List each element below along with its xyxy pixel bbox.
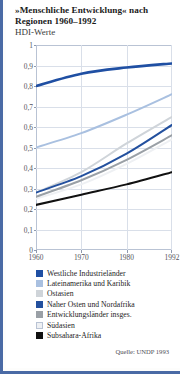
source-note: Quelle: UNDP 1993 (115, 348, 169, 355)
figure-subtitle: HDI-Werte (15, 27, 175, 38)
legend-item: Westliche Industrieländer (36, 268, 178, 278)
y-axis-tick-label: 0,1 (24, 225, 33, 234)
y-axis-tick-label: 0,6 (24, 123, 33, 132)
legend-label: Naher Osten und Nordafrika (47, 300, 135, 309)
legend-item: Naher Osten und Nordafrika (36, 299, 178, 309)
series-lines (36, 45, 172, 250)
x-axis-tick-label: 1992 (165, 253, 180, 262)
y-axis-tick-label: 0,9 (24, 61, 33, 70)
legend-label: Subsahara-Afrika (47, 331, 101, 340)
chart-legend: Westliche IndustrieländerLateinamerika u… (36, 268, 178, 341)
figure-heading: »Menschliche Entwicklung« nach Regionen … (15, 5, 175, 38)
legend-label: Westliche Industrieländer (47, 269, 126, 278)
legend-label: Südasien (47, 321, 75, 330)
figure-frame: »Menschliche Entwicklung« nach Regionen … (0, 0, 180, 374)
legend-swatch (36, 270, 43, 277)
page-title: »Menschliche Entwicklung« nach Regionen … (15, 5, 175, 26)
x-axis-tick-label: 1970 (74, 253, 89, 262)
series-line (36, 63, 172, 86)
y-axis-tick-label: 0,7 (24, 102, 33, 111)
legend-item: Ostasien (36, 289, 178, 299)
legend-swatch (36, 290, 43, 297)
legend-label: Lateinamerika und Karibik (47, 279, 130, 288)
y-axis-tick-label: 1 (29, 41, 33, 50)
y-axis-tick-label: 0,5 (24, 143, 33, 152)
legend-item: Lateinamerika und Karibik (36, 278, 178, 288)
x-axis-tick-label: 1980 (119, 253, 134, 262)
y-axis-tick-label: 0,4 (24, 164, 33, 173)
series-line (36, 94, 172, 147)
legend-item: Südasien (36, 320, 178, 330)
legend-item: Subsahara-Afrika (36, 330, 178, 340)
figure-inner: »Menschliche Entwicklung« nach Regionen … (6, 0, 180, 368)
legend-swatch (36, 301, 43, 308)
series-line (36, 117, 172, 193)
legend-item: Entwicklungsländer insges. (36, 310, 178, 320)
legend-swatch (36, 322, 43, 329)
y-axis-tick-label: 0,3 (24, 184, 33, 193)
y-axis-tick-label: 0,2 (24, 205, 33, 214)
legend-label: Ostasien (47, 289, 73, 298)
y-axis-tick-label: 0,8 (24, 82, 33, 91)
line-chart: 00,10,20,30,40,50,60,70,80,9119601970198… (36, 45, 172, 250)
legend-swatch (36, 311, 43, 318)
legend-swatch (36, 332, 43, 339)
legend-swatch (36, 280, 43, 287)
x-axis-tick-label: 1960 (29, 253, 44, 262)
legend-label: Entwicklungsländer insges. (47, 310, 132, 319)
